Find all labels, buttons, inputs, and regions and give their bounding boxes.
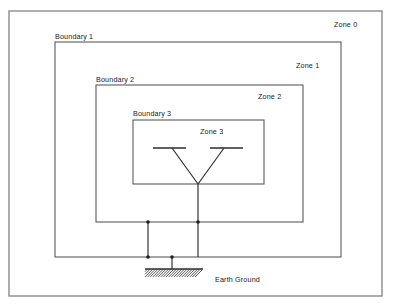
boundary-1-label: Boundary 1 <box>55 32 93 41</box>
junction-boundary1-ground <box>170 255 174 259</box>
antenna-left-arm <box>172 148 198 184</box>
junction-dots <box>146 220 200 259</box>
junction-boundary2-center <box>196 220 200 224</box>
junction-boundary1-left <box>146 255 150 259</box>
diagram-page: Zone 0 Zone 1 Zone 2 Zone 3 Boundary 1 B… <box>0 0 394 307</box>
earth-ground-hatching <box>145 269 203 277</box>
boundary-3-label: Boundary 3 <box>133 109 171 118</box>
diagram-outer-frame <box>9 11 382 296</box>
zone-grounding-diagram: Zone 0 Zone 1 Zone 2 Zone 3 Boundary 1 B… <box>0 0 394 307</box>
boundary-3-rect <box>133 120 264 184</box>
junction-boundary2-left <box>146 220 150 224</box>
boundary-2-label: Boundary 2 <box>96 75 134 84</box>
zone-3-label: Zone 3 <box>200 127 223 136</box>
zone-0-label: Zone 0 <box>334 20 357 29</box>
antenna-right-arm <box>198 148 224 184</box>
boundary-2-rect <box>96 85 303 222</box>
zone-2-label: Zone 2 <box>258 92 281 101</box>
earth-ground-label: Earth Ground <box>215 275 260 284</box>
zone-1-label: Zone 1 <box>296 61 319 70</box>
